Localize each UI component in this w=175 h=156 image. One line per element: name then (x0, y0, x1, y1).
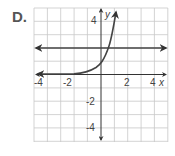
x-tick-4: 4 (150, 77, 156, 88)
y-axis-label: y (104, 9, 111, 20)
y-tick-neg4: -4 (86, 122, 95, 133)
graph: -4 -2 2 4 x 4 y -2 -4 (0, 0, 175, 156)
x-tick-neg4: -4 (34, 77, 43, 88)
x-tick-2: 2 (124, 77, 130, 88)
x-tick-neg2: -2 (63, 77, 72, 88)
x-axis-label: x (158, 77, 165, 88)
y-tick-neg2: -2 (86, 96, 95, 107)
y-tick-4: 4 (91, 15, 97, 26)
